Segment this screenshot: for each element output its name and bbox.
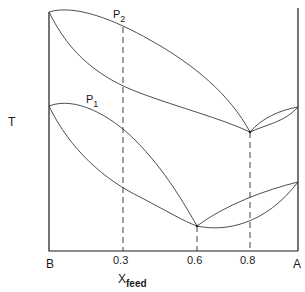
x-tick-0.6: 0.6 (187, 255, 202, 266)
p2-bubble-curve (49, 12, 250, 132)
p2-right-dew-curve (250, 107, 298, 132)
p2-azeotrope-point (249, 131, 251, 133)
x-left-label-B: B (46, 258, 54, 270)
y-axis-label: T (8, 116, 15, 128)
p2-label: P2 (113, 9, 125, 24)
p1-right-bubble-curve (197, 182, 298, 228)
p1-azeotrope-point (196, 225, 198, 227)
x-tick-0.8: 0.8 (240, 255, 255, 266)
x-right-label-A: A (293, 258, 301, 270)
p2-right-bubble-curve (250, 107, 298, 132)
p1-label: P1 (86, 94, 98, 109)
p2-dew-curve (49, 10, 250, 132)
p1-right-dew-curve (197, 182, 298, 226)
x-axis-label: Xfeed (118, 273, 147, 289)
phase-diagram (0, 0, 305, 292)
x-tick-0.3: 0.3 (113, 255, 128, 266)
